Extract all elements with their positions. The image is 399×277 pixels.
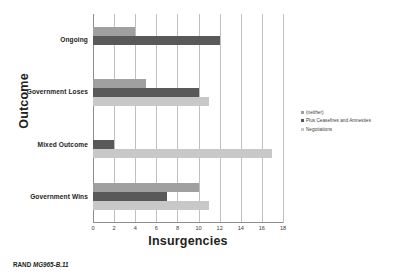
bar	[93, 183, 199, 192]
bar	[93, 79, 146, 88]
bar-group	[93, 131, 283, 158]
bar-group	[93, 79, 283, 106]
x-tick-label-18: 18	[280, 225, 286, 231]
legend-label: Negotiations	[306, 127, 332, 132]
bar	[93, 88, 199, 97]
x-tick-label-14: 14	[238, 225, 244, 231]
footer-brand: RAND	[13, 261, 31, 268]
bar	[93, 27, 135, 36]
x-tick-label-16: 16	[259, 225, 265, 231]
plot-area	[93, 14, 283, 223]
x-tick-label-10: 10	[195, 225, 201, 231]
category-label: Government Loses	[27, 88, 88, 95]
legend-item: Negotiations	[301, 127, 397, 132]
legend-item: Plus Ceasefires and Amnesties	[301, 118, 397, 123]
category-label: Ongoing	[60, 36, 88, 43]
x-tick-label-0: 0	[91, 225, 94, 231]
legend-swatch-icon	[301, 111, 304, 114]
chart-figure: Outcome OngoingGovernment LosesMixed Out…	[0, 0, 399, 277]
bar	[93, 97, 209, 106]
legend-label: Plus Ceasefires and Amnesties	[306, 118, 371, 123]
bar-layer	[93, 14, 283, 223]
bar	[93, 192, 167, 201]
gridline-18	[283, 14, 284, 223]
category-label: Government Wins	[30, 193, 88, 200]
bar-group	[93, 183, 283, 210]
x-tick-label-2: 2	[113, 225, 116, 231]
x-tick-label-8: 8	[176, 225, 179, 231]
legend-swatch-icon	[301, 128, 304, 131]
figure-footer: RAND MG965-B.11	[13, 261, 69, 268]
chart-legend: (neither)Plus Ceasefires and AmnestiesNe…	[301, 110, 397, 135]
category-label: Mixed Outcome	[38, 141, 88, 148]
legend-item: (neither)	[301, 110, 397, 115]
legend-label: (neither)	[306, 110, 324, 115]
x-tick-label-4: 4	[134, 225, 137, 231]
bar	[93, 36, 220, 45]
x-tick-label-12: 12	[217, 225, 223, 231]
footer-document-id: MG965-B.11	[33, 261, 69, 268]
category-labels: OngoingGovernment LosesMixed OutcomeGove…	[0, 14, 93, 223]
legend-swatch-icon	[301, 119, 304, 122]
bar	[93, 201, 209, 210]
x-tick-label-6: 6	[155, 225, 158, 231]
bar	[93, 149, 272, 158]
bar	[93, 140, 114, 149]
bar-group	[93, 27, 283, 54]
x-axis-title: Insurgencies	[93, 234, 283, 248]
